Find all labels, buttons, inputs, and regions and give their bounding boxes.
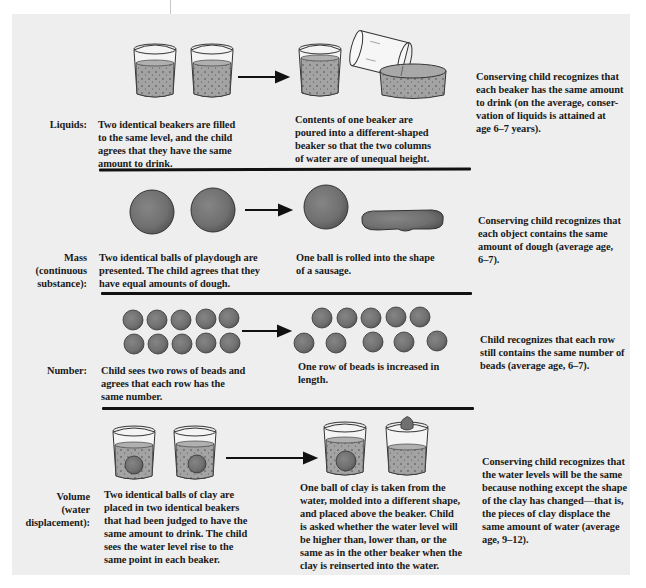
- outcome-description-volume: Conserving child recognizes that the wat…: [482, 455, 627, 546]
- beaker-icon: [299, 44, 341, 96]
- transformation-description-mass: One ball is rolled into the shape of a s…: [296, 251, 434, 277]
- bead-icon: [147, 310, 167, 330]
- bead-row-bottom: [124, 333, 240, 354]
- row-divider: [102, 407, 474, 410]
- dough-ball-icon: [304, 185, 348, 229]
- bead-icon: [427, 331, 447, 351]
- bead-icon: [219, 308, 239, 328]
- bead-icon: [171, 310, 191, 330]
- initial-description-mass: Two identical balls of playdough are pre…: [99, 251, 260, 290]
- initial-description-number: Child sees two rows of beads and agrees …: [101, 364, 245, 403]
- dough-sausage-icon: [362, 210, 443, 231]
- bead-icon: [410, 307, 430, 327]
- row-divider: [101, 292, 472, 295]
- beaker-icon: [113, 426, 155, 479]
- bead-row-top-right: [312, 307, 430, 328]
- clay-ball-icon: [125, 456, 143, 474]
- bead-icon: [394, 332, 414, 352]
- beaker-icon: [386, 417, 428, 476]
- beaker-icon: [134, 44, 176, 97]
- row-label-number: Number:: [30, 364, 87, 377]
- beaker-icon: [174, 426, 216, 479]
- transformation-description-liquids: Contents of one beaker are poured into a…: [295, 113, 431, 165]
- bead-icon: [148, 334, 168, 354]
- bead-icon: [220, 333, 240, 353]
- row-label-mass: Mass (continuous substance):: [14, 251, 87, 290]
- beaker-icon: [191, 44, 233, 97]
- beaker-icon: [324, 422, 366, 475]
- clay-ball-icon: [188, 455, 206, 473]
- dough-ball-icon: [130, 190, 174, 234]
- wide-beaker-icon: [380, 64, 446, 99]
- bead-icon: [196, 333, 216, 353]
- bead-icon: [386, 307, 406, 327]
- outcome-description-liquids: Conserving child recognizes that each be…: [476, 70, 623, 135]
- row-label-liquids: Liquids:: [30, 118, 87, 131]
- bead-icon: [294, 333, 314, 353]
- transformation-description-volume: One ball of clay is taken from the water…: [300, 481, 462, 572]
- bead-icon: [172, 334, 192, 354]
- bead-icon: [363, 332, 383, 352]
- bead-row-top: [123, 308, 239, 330]
- bead-row-bottom-spread: [294, 331, 447, 353]
- bead-icon: [312, 308, 332, 328]
- outcome-description-number: Child recognizes that each row still con…: [480, 333, 625, 372]
- bead-icon: [123, 310, 143, 330]
- row-label-volume: Volume (water displacement):: [10, 490, 90, 529]
- clay-ball-icon: [336, 451, 356, 471]
- transformation-description-number: One row of beads is increased in length.: [298, 360, 439, 386]
- outcome-description-mass: Conserving child recognizes that each ob…: [478, 214, 621, 266]
- bead-icon: [326, 333, 346, 353]
- initial-description-liquids: Two identical beakers are filled to the …: [98, 118, 235, 170]
- bead-icon: [337, 308, 357, 328]
- bead-icon: [196, 309, 216, 329]
- initial-description-volume: Two identical balls of clay are placed i…: [104, 488, 247, 566]
- molded-clay-icon: [401, 417, 413, 431]
- bead-icon: [361, 308, 381, 328]
- dough-ball-icon: [191, 188, 235, 232]
- bead-icon: [124, 334, 144, 354]
